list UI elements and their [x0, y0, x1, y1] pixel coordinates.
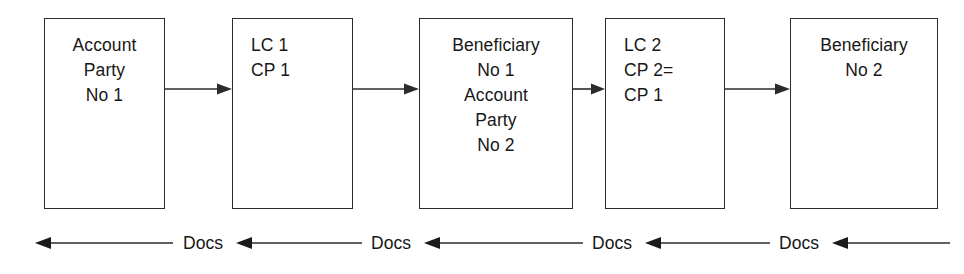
node-text-line: Beneficiary	[820, 33, 908, 58]
arrow-account-party-1-to-lc-1	[165, 80, 232, 98]
docs-arrow-left-2	[236, 234, 362, 252]
lc-2-box[interactable]: LC 2 CP 2= CP 1	[605, 18, 725, 209]
node-text-line: Account	[464, 83, 528, 108]
document-flow-row: Docs Docs Docs Docs	[0, 228, 964, 262]
account-party-1-box[interactable]: Account Party No 1	[44, 18, 165, 209]
node-text-line: LC 2	[624, 33, 661, 58]
docs-label-3: Docs	[585, 228, 639, 258]
docs-arrow-left-4	[645, 234, 770, 252]
node-text-line: No 2	[477, 133, 514, 158]
node-text-line: Account	[73, 33, 137, 58]
node-text-line: Party	[84, 58, 125, 83]
node-text-line: CP 2=	[624, 58, 673, 83]
lc-1-box[interactable]: LC 1 CP 1	[232, 18, 353, 209]
arrow-beneficiary-1-to-lc-2	[573, 80, 605, 98]
node-text-line: Party	[475, 108, 516, 133]
node-text-line: No 1	[477, 58, 514, 83]
docs-arrow-left-1	[35, 234, 173, 252]
docs-label-2: Docs	[364, 228, 418, 258]
arrow-lc-2-to-beneficiary-2	[725, 80, 790, 98]
diagram-canvas: Account Party No 1 LC 1 CP 1 Beneficiary…	[0, 0, 964, 274]
node-text-line: CP 1	[624, 83, 663, 108]
node-text-line: CP 1	[251, 58, 290, 83]
docs-arrow-left-3	[424, 234, 583, 252]
beneficiary-1-account-party-2-box[interactable]: Beneficiary No 1 Account Party No 2	[419, 18, 573, 209]
node-text-line: LC 1	[251, 33, 288, 58]
beneficiary-2-box[interactable]: Beneficiary No 2	[790, 18, 938, 209]
docs-label-4: Docs	[772, 228, 826, 258]
node-text-line: No 1	[86, 83, 123, 108]
docs-arrow-left-5	[832, 234, 950, 252]
arrow-lc-1-to-beneficiary-1	[353, 80, 419, 98]
node-text-line: Beneficiary	[452, 33, 540, 58]
node-text-line: No 2	[845, 58, 882, 83]
docs-label-1: Docs	[176, 228, 230, 258]
